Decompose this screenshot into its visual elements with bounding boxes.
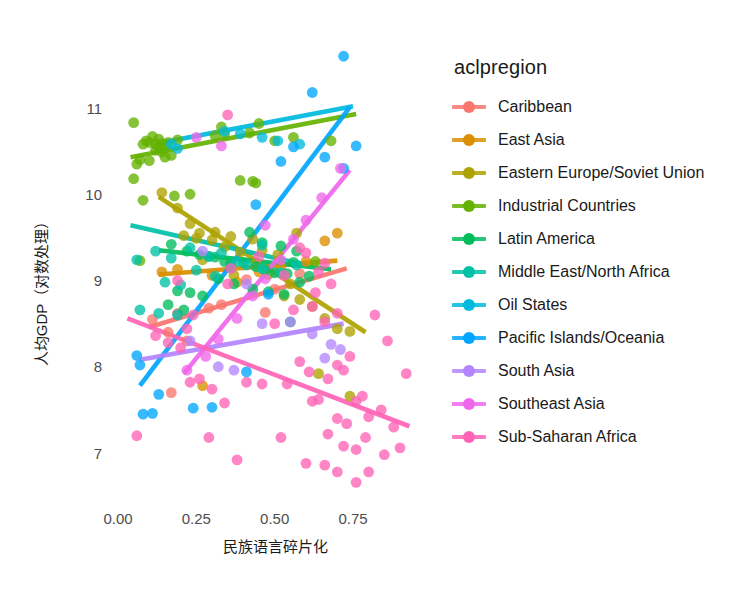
y-tick-label: 11 [86,100,102,117]
data-point [247,291,258,302]
data-point [272,135,283,146]
data-point [276,432,287,443]
legend-item[interactable]: Pacific Islands/Oceania [452,324,736,352]
legend-item-label: Latin America [498,230,595,248]
data-point [285,279,296,290]
data-point [241,260,252,271]
data-point [310,256,321,267]
data-point [319,353,330,364]
data-point [182,365,193,376]
data-point [338,51,349,62]
x-tick-label: 0.50 [260,510,289,527]
data-point [191,233,202,244]
data-point [335,163,346,174]
data-point [288,234,299,245]
data-point [235,128,246,139]
data-point [163,337,174,348]
data-point [401,368,412,379]
data-point [172,275,183,286]
legend-item[interactable]: South Asia [452,357,736,385]
legend-key-dot [463,299,475,311]
legend-key-icon [452,162,486,184]
data-point [216,141,227,152]
data-point [279,270,290,281]
legend-key-dot [463,101,475,113]
data-point [332,413,343,424]
legend-item[interactable]: Latin America [452,225,736,253]
legend-item[interactable]: Caribbean [452,93,736,121]
data-point [172,143,183,154]
data-point [323,373,334,384]
legend-item[interactable]: Eastern Europe/Soviet Union [452,159,736,187]
legend-item[interactable]: Oil States [452,291,736,319]
data-point [213,334,224,345]
data-point [301,215,312,226]
legend-key-dot [463,365,475,377]
data-point [135,360,146,371]
data-point [188,310,199,321]
data-point [203,303,214,314]
legend-key-icon [452,96,486,118]
data-point [294,242,305,253]
legend-item[interactable]: Southeast Asia [452,390,736,418]
data-point [351,477,362,488]
data-point [131,159,142,170]
data-point [138,409,149,420]
legend-item[interactable]: Sub-Saharan Africa [452,423,736,451]
data-point [257,132,268,143]
data-point [131,254,142,265]
data-point [197,291,208,302]
data-point [188,403,199,414]
data-point [210,271,221,282]
data-point [323,429,334,440]
legend-key-icon [452,129,486,151]
data-point [363,467,374,478]
data-point [382,335,393,346]
data-point [332,467,343,478]
legend-key-icon [452,327,486,349]
data-point [156,187,167,198]
legend-key-dot [463,431,475,443]
data-point [276,254,287,265]
data-point [150,246,161,257]
data-point [260,220,271,231]
legend-item[interactable]: Industrial Countries [452,192,736,220]
data-point [235,175,246,186]
data-point [279,289,290,300]
legend-key-icon [452,426,486,448]
data-point [244,227,255,238]
data-point [250,199,261,210]
legend-item[interactable]: Middle East/North Africa [452,258,736,286]
legend-key-icon [452,360,486,382]
data-point [341,418,352,429]
data-point [216,299,227,310]
data-point [210,130,221,141]
data-point [304,367,315,378]
data-point [332,323,343,334]
legend-item-label: Eastern Europe/Soviet Union [498,164,704,182]
data-point [172,264,183,275]
legend-item-label: Caribbean [498,98,572,116]
legend-key-dot [463,398,475,410]
legend-key-dot [463,167,475,179]
data-point [319,460,330,471]
data-point [241,377,252,388]
data-point [363,411,374,422]
data-point [282,379,293,390]
data-point [294,356,305,367]
data-point [135,304,146,315]
data-point [144,155,155,166]
data-point [257,318,268,329]
data-point [316,192,327,203]
data-point [172,310,183,321]
legend-item[interactable]: East Asia [452,126,736,154]
legend-item-label: Middle East/North Africa [498,263,670,281]
y-tick-label: 9 [94,272,102,289]
data-point [338,441,349,452]
data-point [219,126,230,137]
data-point [388,422,399,433]
data-point [351,444,362,455]
legend-key-icon [452,393,486,415]
data-point [379,449,390,460]
data-point [232,455,243,466]
